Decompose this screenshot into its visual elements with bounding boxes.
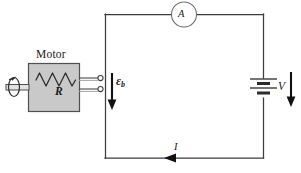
- battery-symbol: [250, 79, 277, 93]
- voltage-arrow-icon: [287, 72, 296, 107]
- back-emf-label: εb: [116, 75, 125, 89]
- motor-shaft: [6, 85, 29, 91]
- motor-terminal-leads: [79, 78, 98, 91]
- terminal-node-top: [98, 75, 103, 80]
- circuit-schematic-canvas: [0, 0, 301, 173]
- motor-label: Motor: [36, 49, 66, 61]
- voltage-label: V: [278, 81, 285, 93]
- resistance-label: R: [55, 86, 63, 98]
- terminal-node-bottom: [98, 86, 103, 91]
- back-emf-subscript: b: [121, 80, 125, 89]
- circuit-diagram-figure: Motor R A εb V I: [0, 0, 301, 173]
- current-label: I: [174, 142, 178, 153]
- current-arrowhead-icon: [164, 153, 176, 162]
- ammeter-label: A: [178, 9, 184, 20]
- motor-box: [29, 64, 80, 112]
- circuit-loop-wires: [105, 14, 264, 158]
